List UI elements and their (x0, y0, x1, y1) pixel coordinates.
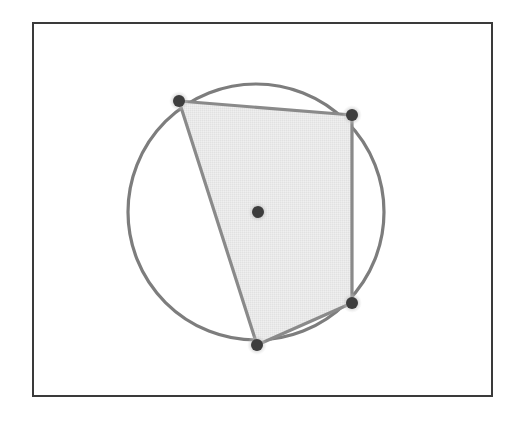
figure-canvas (0, 0, 515, 423)
vertex-bottom[interactable] (247, 335, 267, 355)
geometry-figure (0, 0, 515, 423)
vertex-dot-icon (251, 339, 263, 351)
circle-center-point[interactable] (248, 202, 268, 222)
center-dot-icon (252, 206, 264, 218)
vertex-top-right[interactable] (342, 105, 362, 125)
vertex-top-left[interactable] (169, 91, 189, 111)
vertex-dot-icon (346, 109, 358, 121)
vertex-dot-icon (346, 297, 358, 309)
vertex-dot-icon (173, 95, 185, 107)
vertex-bottom-right[interactable] (342, 293, 362, 313)
